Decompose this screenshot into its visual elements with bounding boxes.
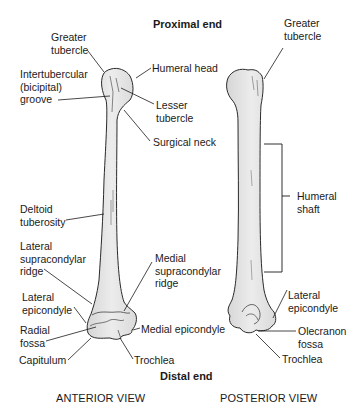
anterior-humerus [87, 68, 136, 339]
label-radial-fossa: Radial fossa [20, 324, 50, 349]
label-trochlea-anterior: Trochlea [134, 354, 174, 367]
posterior-humerus [227, 69, 276, 333]
label-lateral-epicondyle-posterior: Lateral epicondyle [288, 289, 338, 314]
label-olecranon-fossa: Olecranon fossa [298, 325, 346, 350]
anterior-view-caption: ANTERIOR VIEW [56, 392, 145, 404]
label-humeral-head: Humeral head [152, 62, 218, 75]
label-greater-tubercle-posterior: Greater tubercle [284, 17, 321, 42]
label-trochlea-posterior: Trochlea [282, 353, 322, 366]
label-greater-tubercle-anterior: Greater tubercle [51, 31, 88, 56]
posterior-view-caption: POSTERIOR VIEW [220, 392, 317, 404]
label-lateral-supracondylar-ridge: Lateral supracondylar ridge [20, 240, 86, 278]
humeral-shaft-bracket [264, 144, 290, 272]
label-surgical-neck: Surgical neck [153, 136, 216, 149]
label-lesser-tubercle: Lesser tubercle [156, 99, 193, 124]
label-capitulum: Capitulum [19, 354, 66, 367]
proximal-end-title: Proximal end [153, 18, 222, 30]
distal-end-title: Distal end [160, 370, 213, 382]
label-deltoid-tuberosity: Deltoid tuberosity [20, 203, 66, 228]
label-humeral-shaft: Humeral shaft [297, 190, 337, 215]
label-lateral-epicondyle-anterior: Lateral epicondyle [22, 291, 72, 316]
label-intertubercular-groove: Intertubercular (bicipital) groove [20, 68, 88, 106]
label-medial-supracondylar-ridge: Medial supracondylar ridge [155, 252, 221, 290]
label-medial-epicondyle: Medial epicondyle [141, 323, 225, 336]
